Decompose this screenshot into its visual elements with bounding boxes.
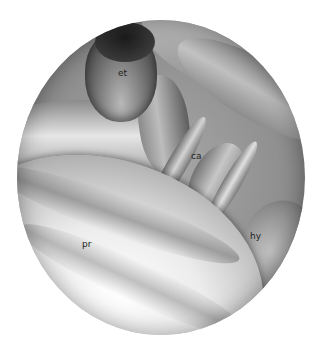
label-et: et [118,69,127,78]
circular-view-field [17,20,305,335]
label-hy: hy [250,232,261,241]
edge-vignette [17,20,305,335]
label-pr: pr [82,240,91,249]
label-ca: ca [191,152,201,161]
